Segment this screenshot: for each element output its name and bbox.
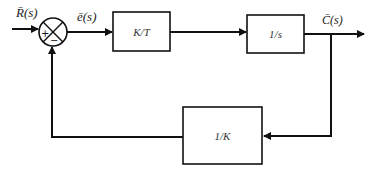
minus-sign: − <box>50 35 58 46</box>
feedback-line-left <box>52 47 183 137</box>
svg-text:1/K: 1/K <box>215 130 232 142</box>
error-label: ē(s) <box>77 9 97 24</box>
integrator-block: 1/s <box>247 15 304 53</box>
forward-gain-block: K/T <box>113 12 170 51</box>
output-label: C̄(s) <box>322 13 343 27</box>
feedback-gain-block: 1/K <box>183 107 262 164</box>
summing-junction: + − <box>39 18 67 46</box>
block-diagram: R̄(s) + − ē(s) K/T 1/s C̄(s) 1/K <box>0 0 377 173</box>
plus-sign: + <box>41 28 49 39</box>
svg-text:K/T: K/T <box>132 26 150 38</box>
svg-text:1/s: 1/s <box>269 28 282 40</box>
input-label: R̄(s) <box>15 5 38 20</box>
